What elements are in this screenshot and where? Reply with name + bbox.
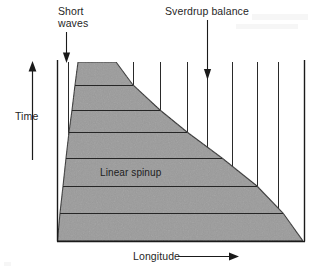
figure-canvas: Short waves Sverdrup balance Time Longit… — [0, 0, 323, 271]
label-sverdrup-balance: Sverdrup balance — [165, 5, 249, 17]
scan-artifact — [252, 14, 308, 20]
sverdrup-arrowhead — [204, 69, 211, 80]
longitude-axis-arrow — [178, 253, 239, 261]
time-axis-arrowhead — [29, 61, 37, 72]
spinup-wedge — [58, 62, 304, 241]
label-longitude-axis: Longitude — [133, 250, 180, 262]
label-short-waves: Short waves — [58, 5, 88, 29]
scan-artifact — [236, 24, 298, 29]
spinup-diagram-svg — [0, 0, 323, 271]
spinup-wedge-fill — [58, 62, 304, 241]
short-waves-arrowhead — [63, 53, 70, 64]
short-waves-arrow — [63, 32, 70, 63]
sverdrup-arrow — [204, 20, 211, 80]
scan-artifact — [4, 262, 11, 266]
label-time-axis: Time — [15, 110, 38, 122]
longitude-axis-arrowhead — [229, 253, 239, 261]
label-linear-spinup: Linear spinup — [100, 167, 161, 179]
